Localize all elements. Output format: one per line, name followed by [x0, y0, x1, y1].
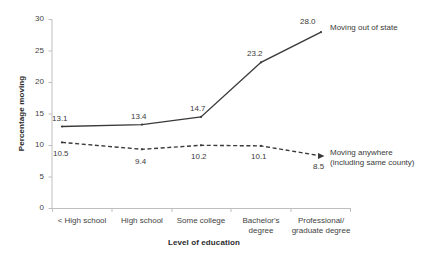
y-axis-title: Percentage moving: [17, 74, 26, 154]
x-axis-tick-professional-degree-line2: graduate degree: [285, 226, 357, 236]
series2-marker-1: [141, 148, 143, 150]
series1-marker-0: [61, 125, 63, 127]
series-label-moving-out-of-state: Moving out of state: [330, 23, 398, 33]
line-chart: 30 25 20 15 10 5 0 Percentage moving < H…: [0, 0, 422, 259]
series-label-moving-anywhere-line2: (including same county): [330, 158, 414, 168]
series2-end-arrow: [318, 153, 325, 159]
series2-marker-0: [61, 141, 63, 143]
data-label-out-of-state-0: 13.1: [52, 114, 68, 123]
y-axis-tick-0: 0: [28, 204, 44, 212]
data-label-out-of-state-2: 14.7: [190, 104, 206, 113]
data-label-out-of-state-1: 13.4: [131, 112, 147, 121]
x-axis-title: Level of education: [134, 238, 274, 247]
series1-marker-4: [320, 31, 322, 33]
y-axis-tick-5: 5: [28, 173, 44, 181]
series1-marker-1: [141, 124, 143, 126]
data-label-anywhere-0: 10.5: [53, 149, 69, 158]
series2-marker-3: [260, 145, 262, 147]
data-label-anywhere-4: 8.5: [313, 162, 324, 171]
y-axis-tick-20: 20: [28, 78, 44, 86]
y-axis-tick-15: 15: [28, 110, 44, 118]
data-label-out-of-state-3: 23.2: [247, 49, 263, 58]
series1-marker-2: [200, 116, 202, 118]
y-axis-tick-10: 10: [28, 141, 44, 149]
series1-marker-3: [260, 61, 262, 63]
x-axis-tick-professional-degree-line1: Professional/: [285, 216, 357, 226]
data-label-anywhere-2: 10.2: [191, 152, 207, 161]
y-axis-tick-25: 25: [28, 47, 44, 55]
data-label-anywhere-3: 10.1: [251, 152, 267, 161]
data-label-anywhere-1: 9.4: [135, 157, 146, 166]
data-label-out-of-state-4: 28.0: [300, 17, 316, 26]
series2-marker-2: [200, 144, 202, 146]
y-axis-tick-30: 30: [28, 15, 44, 23]
series-label-moving-anywhere-line1: Moving anywhere: [330, 148, 393, 158]
